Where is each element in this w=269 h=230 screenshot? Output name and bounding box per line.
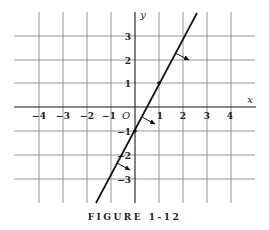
svg-text:−4: −4 [32, 111, 46, 121]
svg-text:2: 2 [125, 56, 131, 66]
figure-caption: FIGURE 1-12 [0, 212, 269, 222]
svg-text:2: 2 [180, 111, 186, 121]
normal-arrow-icon [175, 53, 189, 60]
figure-graph: −4 −3 −2 −1 1 2 3 4 3 2 1 −1 −2 −3 x y O [0, 0, 269, 212]
x-tick-labels: −4 −3 −2 −1 1 2 3 4 [32, 111, 233, 121]
point-0-neg1 [133, 129, 137, 133]
x-axis-label: x [247, 94, 253, 105]
y-axis-label: y [139, 9, 146, 20]
svg-text:1: 1 [125, 79, 131, 89]
svg-text:−2: −2 [80, 111, 94, 121]
svg-text:−1: −1 [117, 127, 131, 137]
svg-text:−3: −3 [56, 111, 70, 121]
svg-text:3: 3 [204, 111, 210, 121]
svg-text:−3: −3 [117, 175, 131, 185]
normal-arrow-icon [117, 163, 130, 170]
normal-arrow-icon [142, 117, 155, 124]
point-1-1 [157, 81, 161, 85]
svg-text:4: 4 [227, 111, 233, 121]
svg-text:−1: −1 [102, 111, 116, 121]
svg-text:1: 1 [157, 111, 163, 121]
y-tick-labels: 3 2 1 −1 −2 −3 [117, 32, 131, 185]
svg-text:3: 3 [125, 32, 131, 42]
origin-label: O [122, 110, 130, 121]
